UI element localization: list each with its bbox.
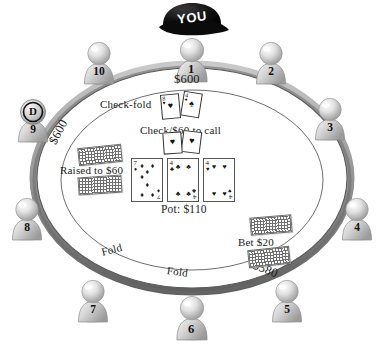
pip: ♣ (186, 162, 191, 169)
pip: ♥ (223, 162, 227, 169)
hole-card-top-1: 8 ♥ ♥ (160, 93, 181, 120)
board-card-1: 7 ♦ 7 ♦ ♦ ♦ ♦ ♦ ♦ ♦ ♦ (131, 158, 163, 202)
seat-6-label: 6 (172, 322, 210, 337)
card-pips: ♥ ♥ ♥ ♥ (209, 162, 229, 198)
pip: ♣ (176, 162, 181, 169)
pip: ♣ (176, 189, 181, 196)
seat-2-label: 2 (254, 65, 288, 77)
card-suit-center: ♠ (189, 99, 195, 109)
pip: ♦ (146, 167, 150, 174)
card-suit-center: ♥ (188, 136, 194, 146)
hero-cap-label: YOU (162, 7, 221, 29)
poker-table-diagram: YOU D 1 2 3 4 5 6 7 8 9 10 $600 $600 $58… (0, 0, 384, 356)
pip: ♥ (212, 189, 216, 196)
hole-card-top-2: 4 ♠ ♠ (180, 91, 203, 119)
pip: ♦ (151, 161, 155, 168)
board-card-3: 4 ♥ 4 ♥ ♥ ♥ ♥ ♥ (203, 158, 235, 202)
pip: ♥ (223, 189, 227, 196)
seat-7[interactable]: 7 (76, 280, 110, 322)
card-suit: ♥ (162, 100, 165, 105)
card-suit: ♠ (184, 97, 187, 102)
action-check-fold: Check-fold (100, 98, 151, 110)
seat-1[interactable]: 1 (172, 36, 210, 82)
board-card-2: 4 ♣ 4 ♣ ♣ ♣ ♣ ♣ (167, 158, 199, 202)
pip: ♥ (212, 162, 216, 169)
seat-4[interactable]: 4 (340, 198, 374, 240)
seat-8-label: 8 (10, 221, 44, 233)
seat-5[interactable]: 5 (270, 280, 304, 322)
seat-10[interactable]: 10 (82, 42, 116, 84)
dealer-button[interactable]: D (20, 99, 46, 125)
card-suit-bottom: ♦ (157, 188, 160, 194)
card-rank-bottom: 4 (229, 193, 233, 201)
board-cards: 7 ♦ 7 ♦ ♦ ♦ ♦ ♦ ♦ ♦ ♦ 4 ♣ 4 ♣ ♣ ♣ ♣ ♣ (131, 158, 235, 204)
hero-cap: YOU (163, 2, 221, 30)
chip-stack-raise-lower (77, 174, 122, 195)
seat-10-label: 10 (82, 65, 116, 77)
dealer-button-label: D (20, 105, 46, 117)
seat-2[interactable]: 2 (254, 42, 288, 84)
card-suit-center: ♥ (167, 101, 173, 110)
seat-5-label: 5 (270, 303, 304, 315)
pip: ♦ (146, 181, 150, 188)
action-bet: Bet $20 (238, 236, 274, 248)
pip: ♦ (140, 190, 144, 197)
seat-8[interactable]: 8 (10, 198, 44, 240)
chip-stack-bet-upper (249, 214, 292, 236)
hole-cards-center: ♥ ♥ (162, 130, 212, 154)
seat-3[interactable]: 3 (313, 98, 347, 140)
pip: ♦ (140, 161, 144, 168)
pip: ♣ (186, 189, 191, 196)
seat-7-label: 7 (76, 303, 110, 315)
card-suit-center: ♥ (169, 138, 175, 147)
hole-card-center-1: ♥ (162, 131, 182, 154)
card-rank-bottom: 4 (193, 193, 197, 201)
pot-label: Pot: $110 (161, 203, 207, 215)
seat-6[interactable]: 6 (172, 296, 210, 342)
card-rank-bottom: 7 (157, 193, 161, 201)
card-pips: ♣ ♣ ♣ ♣ (173, 162, 193, 198)
pip: ♦ (151, 190, 155, 197)
seat-4-label: 4 (340, 221, 374, 233)
pip: ♦ (140, 172, 144, 179)
seat-1-label: 1 (172, 62, 210, 77)
hole-cards-top: 4 ♠ ♠ 8 ♥ ♥ (160, 92, 216, 118)
seat-3-label: 3 (313, 121, 347, 133)
card-pips: ♦ ♦ ♦ ♦ ♦ ♦ ♦ (137, 162, 157, 198)
hole-card-center-2: ♥ (181, 130, 203, 154)
